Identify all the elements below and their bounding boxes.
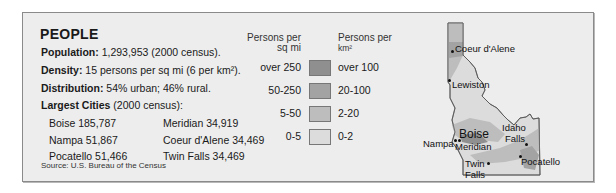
legend-km2-value: over 100 [338,61,379,73]
map-label-idaho-falls: IdahoFalls [502,122,526,144]
map-label-lewiston: Lewiston [452,79,490,90]
legend-sqmi-value: 50-250 [245,84,301,96]
source-note: Source: U.S. Bureau of the Census [41,161,166,170]
distribution-label: Distribution: [41,82,103,94]
map-label-pocatello: Pocatello [521,156,560,167]
legend-swatch [309,129,331,145]
legend-km2-value: 20-100 [338,84,371,96]
legend-head-sqmi: Persons persq mi [247,33,301,53]
map-label-boise: Boise [459,127,489,141]
legend-sqmi-value: 0-5 [245,130,301,142]
population-value: 1,293,953 (2000 census). [99,46,221,58]
map-label-twin-falls: TwinFalls [465,158,485,180]
city-dot [448,79,451,82]
legend-swatch [309,106,331,122]
distribution-value: 54% urban; 46% rural. [103,82,210,94]
density-value: 15 persons per sq mi (6 per km²). [82,64,240,76]
city-item: Nampa 51,867 [49,134,118,146]
map-label-nampa: Nampa [423,138,454,149]
density-line: Density: 15 persons per sq mi (6 per km²… [41,64,241,76]
city-item: Twin Falls 34,469 [163,150,245,162]
map-label-coeur-dalene: Coeur d'Alene [455,43,515,54]
legend-swatch [309,60,331,76]
distribution-line: Distribution: 54% urban; 46% rural. [41,82,211,94]
population-line: Population: 1,293,953 (2000 census). [41,46,221,58]
city-item: Boise 185,787 [49,117,116,129]
city-dot [525,143,528,146]
map-label-meridian: Meridian [455,141,491,152]
largest-cities-line: Largest Cities (2000 census): [41,99,183,111]
legend-sqmi-value: 5-50 [245,107,301,119]
legend-km2-value: 0-2 [338,130,353,142]
legend-sqmi-value: over 250 [245,61,301,73]
legend-head-km2: Persons perkm² [338,33,392,53]
density-label: Density: [41,64,82,76]
legend-km2-value: 2-20 [338,107,359,119]
city-item: Meridian 34,919 [163,117,238,129]
city-dot [487,162,490,165]
population-label: Population: [41,46,99,58]
legend-swatch [309,83,331,99]
largest-cities-value: (2000 census): [110,99,182,111]
city-dot [451,50,454,53]
largest-cities-label: Largest Cities [41,99,110,111]
section-title: PEOPLE [40,26,99,42]
